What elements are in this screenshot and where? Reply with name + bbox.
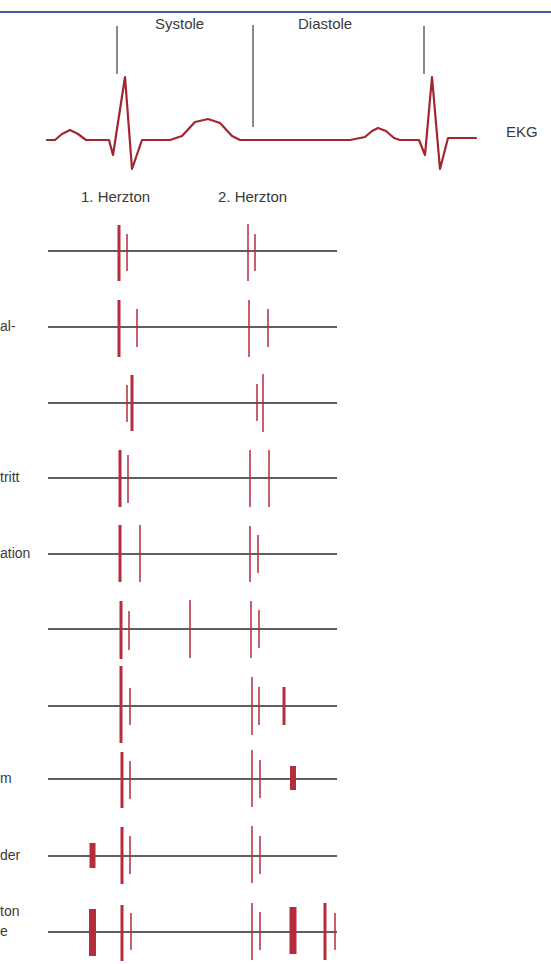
sound-row bbox=[48, 600, 337, 659]
sound-component-mark bbox=[118, 225, 121, 281]
murmur-block bbox=[290, 907, 297, 954]
row-label-fragment: der bbox=[0, 847, 20, 864]
sound-row bbox=[48, 374, 337, 432]
second-heart-sound-label: 2. Herzton bbox=[218, 188, 287, 206]
sound-row bbox=[48, 450, 337, 507]
sound-component-mark bbox=[258, 610, 260, 648]
sound-component-mark bbox=[251, 903, 253, 960]
sound-row bbox=[48, 525, 337, 582]
sound-component-mark bbox=[121, 827, 124, 884]
sound-component-mark bbox=[121, 752, 124, 808]
sound-row bbox=[48, 224, 337, 281]
sound-component-mark bbox=[127, 455, 129, 503]
sound-component-mark bbox=[258, 687, 260, 725]
sound-component-mark bbox=[267, 309, 269, 347]
phase-dividers bbox=[117, 25, 424, 127]
sound-component-mark bbox=[247, 224, 249, 281]
row-label-fragment: al- bbox=[0, 318, 16, 335]
sound-component-mark bbox=[130, 913, 132, 950]
row-label-fragment: m bbox=[0, 770, 12, 787]
sound-component-mark bbox=[118, 300, 121, 357]
sound-component-mark bbox=[250, 601, 252, 658]
phonocardiogram-rows bbox=[48, 224, 337, 961]
sound-component-mark bbox=[126, 234, 128, 271]
row-label-fragment: tritt bbox=[0, 469, 19, 486]
sound-component-mark bbox=[251, 677, 253, 735]
sound-component-mark bbox=[129, 836, 131, 874]
sound-component-mark bbox=[128, 611, 130, 650]
sound-component-mark bbox=[131, 375, 134, 431]
sound-component-mark bbox=[119, 525, 122, 582]
row-label-fragment: ation bbox=[0, 545, 30, 562]
murmur-block bbox=[89, 909, 96, 956]
sound-component-mark bbox=[120, 666, 123, 743]
sound-row bbox=[48, 750, 337, 808]
sound-component-mark bbox=[262, 374, 264, 432]
sound-component-mark bbox=[249, 450, 251, 507]
sound-row bbox=[48, 300, 337, 357]
row-label-fragment: e bbox=[0, 923, 8, 940]
sound-row bbox=[48, 903, 337, 961]
sound-component-mark bbox=[324, 903, 327, 960]
sound-component-mark bbox=[249, 526, 251, 582]
sound-component-mark bbox=[189, 600, 191, 658]
diastole-label: Diastole bbox=[298, 15, 352, 33]
heart-sound-diagram bbox=[0, 0, 551, 964]
murmur-block bbox=[90, 843, 96, 868]
sound-component-mark bbox=[136, 309, 138, 347]
sound-component-mark bbox=[121, 905, 124, 961]
systole-label: Systole bbox=[155, 15, 204, 33]
sound-component-mark bbox=[251, 750, 253, 807]
sound-component-mark bbox=[129, 761, 131, 799]
sound-component-mark bbox=[126, 385, 128, 422]
sound-component-mark bbox=[254, 234, 256, 271]
sound-component-mark bbox=[129, 688, 131, 725]
murmur-block bbox=[290, 766, 296, 790]
sound-component-mark bbox=[283, 687, 286, 725]
sound-component-mark bbox=[248, 300, 250, 357]
sound-row bbox=[48, 666, 337, 743]
sound-component-mark bbox=[120, 601, 123, 659]
sound-component-mark bbox=[259, 760, 261, 798]
sound-component-mark bbox=[259, 836, 261, 874]
ekg-trace bbox=[47, 77, 476, 169]
sound-component-mark bbox=[334, 913, 336, 950]
row-label-fragment: ton bbox=[0, 903, 19, 920]
sound-component-mark bbox=[268, 450, 270, 507]
sound-component-mark bbox=[259, 912, 261, 950]
sound-component-mark bbox=[139, 525, 141, 582]
sound-row bbox=[48, 826, 337, 884]
sound-component-mark bbox=[257, 535, 259, 573]
ekg-label: EKG bbox=[506, 123, 538, 141]
sound-component-mark bbox=[251, 826, 253, 883]
first-heart-sound-label: 1. Herzton bbox=[81, 188, 150, 206]
sound-component-mark bbox=[256, 384, 258, 421]
sound-component-mark bbox=[119, 450, 122, 507]
